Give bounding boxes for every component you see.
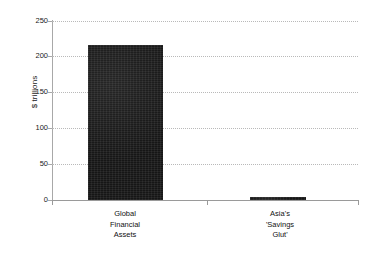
x-tick-mark-right — [358, 200, 359, 205]
category-label-line-2: 'Savings — [240, 220, 320, 231]
y-tick-label-200: 200 — [18, 52, 48, 60]
x-axis-baseline — [52, 200, 358, 201]
category-label-line-1: Global — [85, 209, 165, 220]
y-tick-label-50: 50 — [18, 160, 48, 168]
category-label-line-3: Glut' — [240, 230, 320, 241]
y-axis-tick-labels: 250 200 150 100 50 0 — [14, 21, 48, 200]
category-label-line-3: Assets — [85, 230, 165, 241]
x-tick-mark-middle — [207, 200, 208, 205]
category-label-global-financial-assets: Global Financial Assets — [85, 209, 165, 241]
y-tick-label-0: 0 — [18, 196, 48, 204]
y-tick-label-150: 150 — [18, 88, 48, 96]
category-label-asias-savings-glut: Asia's 'Savings Glut' — [240, 209, 320, 241]
bar-chart: $ trillions 250 200 150 100 50 0 — [0, 0, 378, 258]
plot-area — [52, 21, 358, 200]
y-tick-label-250: 250 — [18, 17, 48, 25]
category-label-line-1: Asia's — [240, 209, 320, 220]
y-tick-label-100: 100 — [18, 124, 48, 132]
bar-asias-savings-glut[interactable] — [250, 197, 306, 200]
gridline-250 — [52, 21, 358, 22]
bar-global-financial-assets[interactable] — [88, 45, 163, 200]
x-tick-mark-left — [52, 200, 53, 205]
category-label-line-2: Financial — [85, 220, 165, 231]
